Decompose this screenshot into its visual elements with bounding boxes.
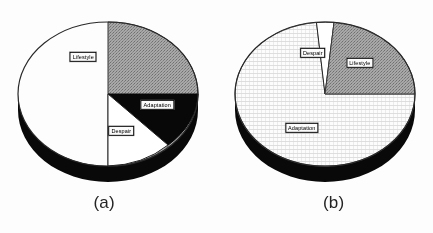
pie-b-label-lifestyle: Lifestyle xyxy=(346,58,373,68)
caption-a: (a) xyxy=(0,193,217,213)
pie-b-label-despair: Despair xyxy=(300,48,326,58)
pie-a-label-despair: Despair xyxy=(108,126,134,136)
figure-two-pie-charts: Lifestyle Adaptation Despair (a) xyxy=(0,0,433,233)
caption-b: (b) xyxy=(217,193,433,213)
pie-a-label-lifestyle: Lifestyle xyxy=(70,52,97,62)
pie-chart-a: Lifestyle Adaptation Despair xyxy=(13,6,203,186)
pie-a-svg xyxy=(13,6,203,186)
panel-b: Despair Lifestyle Adaptation (b) xyxy=(217,0,433,233)
pie-b-svg xyxy=(230,6,420,186)
panel-a: Lifestyle Adaptation Despair (a) xyxy=(0,0,217,233)
pie-b-slices xyxy=(235,22,415,166)
pie-a-slices xyxy=(18,22,198,166)
pie-b-label-adaptation: Adaptation xyxy=(285,123,318,133)
pie-chart-b: Despair Lifestyle Adaptation xyxy=(230,6,420,186)
pie-a-label-adaptation: Adaptation xyxy=(141,100,174,110)
